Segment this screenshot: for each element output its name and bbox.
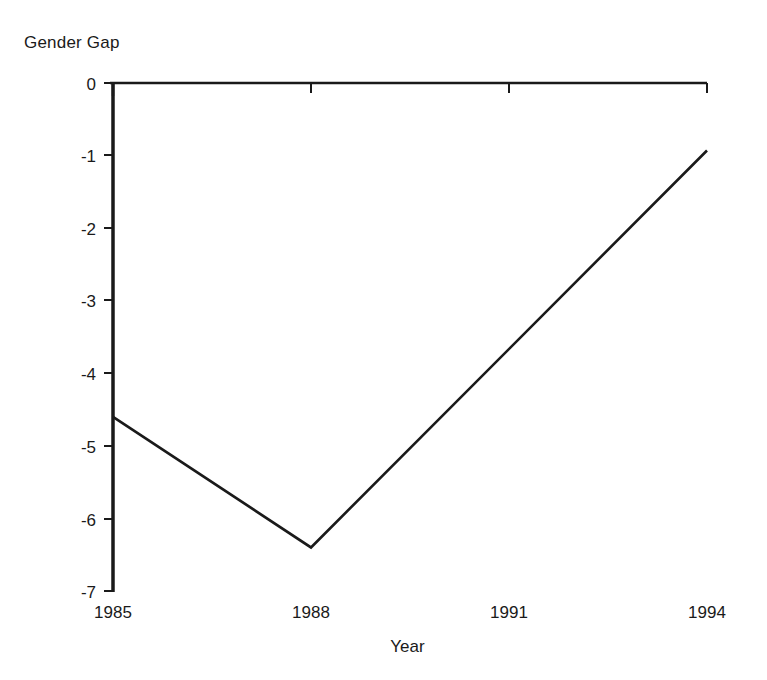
x-axis-title-wrap: Year	[0, 637, 767, 657]
y-tick-label: -2	[81, 220, 96, 239]
x-tick-label: 1988	[292, 603, 330, 622]
y-tick-label: -6	[81, 511, 96, 530]
y-tick-label: -3	[81, 292, 96, 311]
y-tick-label: -1	[81, 147, 96, 166]
x-axis-ticks	[113, 83, 707, 96]
data-series-line	[113, 150, 707, 547]
chart-container: Gender Gap 0 -1 -2 -3 -4 -5	[0, 0, 767, 680]
x-tick-label: 1985	[94, 603, 132, 622]
x-axis-title: Year	[390, 637, 424, 656]
y-tick-label: -5	[81, 438, 96, 457]
y-tick-label: -4	[81, 365, 96, 384]
x-tick-label: 1991	[490, 603, 528, 622]
plot-area: 0 -1 -2 -3 -4 -5 -6 -7 1985 1988 1991 19…	[0, 0, 767, 680]
x-tick-label: 1994	[688, 603, 726, 622]
y-tick-label: 0	[87, 75, 96, 94]
y-tick-label: -7	[81, 583, 96, 602]
